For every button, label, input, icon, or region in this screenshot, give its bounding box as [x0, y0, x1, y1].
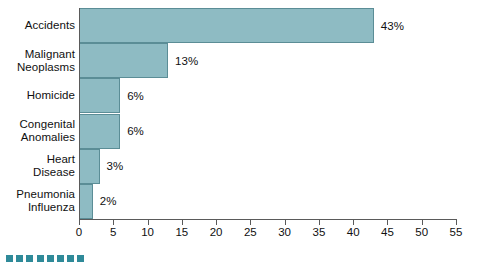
bar-chart: AccidentsMalignantNeoplasmsHomicideConge…: [0, 0, 488, 273]
x-tick: [250, 220, 251, 225]
x-tick: [113, 220, 114, 225]
bar-row: 2%: [79, 184, 456, 219]
x-tick-label: 5: [110, 226, 116, 238]
x-tick: [182, 220, 183, 225]
decorative-square: [67, 255, 74, 262]
x-tick: [79, 220, 80, 225]
decorative-square: [6, 255, 13, 262]
decorative-square: [47, 255, 54, 262]
bar: [79, 78, 120, 113]
decorative-square-strip: [6, 255, 84, 262]
x-tick: [387, 220, 388, 225]
x-tick-label: 20: [210, 226, 223, 238]
x-tick: [216, 220, 217, 225]
bar-row: 6%: [79, 114, 456, 149]
x-tick-label: 25: [244, 226, 257, 238]
x-tick-label: 40: [347, 226, 360, 238]
bar: [79, 184, 93, 219]
category-label: Homicide: [1, 78, 75, 113]
x-tick: [456, 220, 457, 225]
bar-row: 13%: [79, 43, 456, 78]
bar-value-label: 13%: [175, 55, 198, 67]
x-tick-label: 10: [141, 226, 154, 238]
category-label-line: Congenital: [20, 118, 75, 131]
x-tick-label: 0: [76, 226, 82, 238]
bar-value-label: 2%: [100, 195, 117, 207]
category-label-line: Neoplasms: [17, 61, 75, 74]
bar: [79, 43, 168, 78]
y-axis-line: [79, 8, 80, 220]
decorative-square: [57, 255, 64, 262]
category-label-line: Accidents: [25, 19, 75, 32]
category-label: HeartDisease: [1, 149, 75, 184]
bar-value-label: 6%: [127, 90, 144, 102]
category-label: MalignantNeoplasms: [1, 43, 75, 78]
x-tick: [319, 220, 320, 225]
category-axis-labels: AccidentsMalignantNeoplasmsHomicideConge…: [0, 8, 75, 219]
bar-value-label: 6%: [127, 125, 144, 137]
bar-row: 43%: [79, 8, 456, 43]
x-tick: [353, 220, 354, 225]
bar-value-label: 3%: [107, 160, 124, 172]
category-label-line: Disease: [33, 166, 75, 179]
bar-value-label: 43%: [381, 20, 404, 32]
x-tick-label: 30: [278, 226, 291, 238]
decorative-square: [16, 255, 23, 262]
bar-row: 3%: [79, 149, 456, 184]
category-label: CongenitalAnomalies: [1, 114, 75, 149]
category-label-line: Pneumonia: [16, 188, 75, 201]
category-label: Accidents: [1, 8, 75, 43]
category-label: PneumoniaInfluenza: [1, 184, 75, 219]
category-label-line: Malignant: [25, 48, 75, 61]
category-label-line: Heart: [47, 153, 75, 166]
decorative-square: [26, 255, 33, 262]
bar: [79, 8, 374, 43]
x-tick-label: 55: [450, 226, 463, 238]
bar: [79, 149, 100, 184]
x-tick-label: 35: [313, 226, 326, 238]
plot-area: 43%13%6%6%3%2%: [79, 8, 456, 219]
x-tick-label: 15: [175, 226, 188, 238]
decorative-square: [77, 255, 84, 262]
x-tick: [422, 220, 423, 225]
decorative-square: [37, 255, 44, 262]
category-label-line: Influenza: [28, 201, 75, 214]
x-tick: [148, 220, 149, 225]
bar: [79, 114, 120, 149]
bar-row: 6%: [79, 78, 456, 113]
x-tick-label: 45: [381, 226, 394, 238]
x-tick-label: 50: [415, 226, 428, 238]
x-axis-line: [79, 219, 457, 220]
category-label-line: Anomalies: [21, 131, 75, 144]
category-label-line: Homicide: [27, 89, 75, 102]
x-tick: [285, 220, 286, 225]
